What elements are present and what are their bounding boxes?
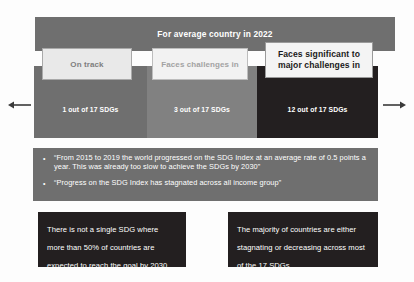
label-box-faces-significant: Faces significant to major challenges in (265, 42, 373, 78)
arrow-left-icon (8, 97, 32, 109)
header-title: For average country in 2022 (157, 29, 272, 39)
label-faces-challenges: Faces challenges in (161, 60, 239, 69)
slide-canvas: For average country in 2022 1 out of 17 … (0, 0, 414, 282)
bullet-marker-icon: • (43, 178, 54, 188)
bullet-text-2: “Progress on the SDG Index has stagnated… (54, 178, 368, 187)
callout-left: There is not a single SDG where more tha… (38, 212, 186, 267)
bullet-text-1: “From 2015 to 2019 the world progressed … (54, 153, 368, 172)
band-value-on-track: 1 out of 17 SDGs (63, 106, 119, 113)
band-value-faces-challenges: 3 out of 17 SDGs (174, 106, 230, 113)
label-on-track: On track (70, 60, 103, 69)
label-box-faces-challenges: Faces challenges in (152, 48, 248, 80)
callout-right: The majority of countries are either sta… (228, 212, 378, 267)
bullet-marker-icon: • (43, 153, 54, 163)
callout-right-text: The majority of countries are either sta… (237, 225, 365, 270)
label-faces-significant: Faces significant to major challenges in (270, 49, 368, 71)
callout-left-text: There is not a single SDG where more tha… (47, 225, 167, 270)
bullet-item: • “From 2015 to 2019 the world progresse… (43, 153, 368, 172)
label-box-on-track: On track (42, 48, 132, 80)
band-value-faces-significant: 12 out of 17 SDGs (288, 106, 348, 113)
arrow-right-icon (382, 97, 406, 109)
bullet-item: • “Progress on the SDG Index has stagnat… (43, 178, 368, 188)
bullets-panel: • “From 2015 to 2019 the world progresse… (33, 148, 378, 201)
